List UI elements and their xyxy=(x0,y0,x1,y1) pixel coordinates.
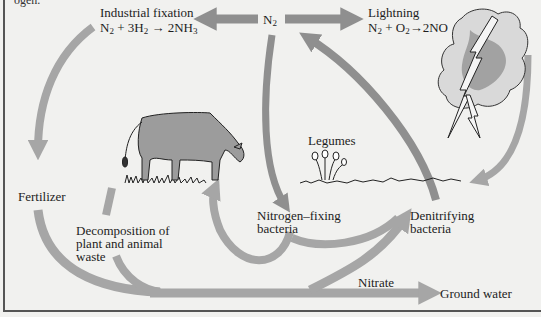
arrow-decomposition-path xyxy=(106,188,112,215)
decomposition-label: Decomposition of plant and animal waste xyxy=(76,224,170,263)
ground-water-label: Ground water xyxy=(440,287,512,300)
n2-label: N2 xyxy=(263,13,277,26)
lightning-title: Lightning xyxy=(368,6,419,19)
legumes-label: Legumes xyxy=(308,134,356,147)
fertilizer-label: Fertilizer xyxy=(18,190,66,203)
nitrogen-fixing-bacteria-label: Nitrogen–fixing bacteria xyxy=(257,209,341,235)
industrial-fixation-equation: N2 + 3H2 → 2NH3 xyxy=(100,21,197,34)
nitrate-label: Nitrate xyxy=(358,276,394,289)
denitrifying-bacteria-label: Denitrifying bacteria xyxy=(410,209,474,235)
arrow-n2-to-nitrogen-fixing xyxy=(266,35,285,205)
nitrogen-cycle-diagram xyxy=(0,0,541,317)
lightning-equation: N2 + O2→2NO xyxy=(368,21,448,34)
arrow-denitrifying-to-n2 xyxy=(308,38,436,200)
cow-illustration xyxy=(123,113,244,180)
legume-plants-illustration xyxy=(312,150,347,180)
industrial-fixation-title: Industrial fixation xyxy=(100,6,194,19)
storm-cloud-illustration xyxy=(438,9,528,138)
arrow-industrial-to-fertilizer xyxy=(38,27,93,150)
